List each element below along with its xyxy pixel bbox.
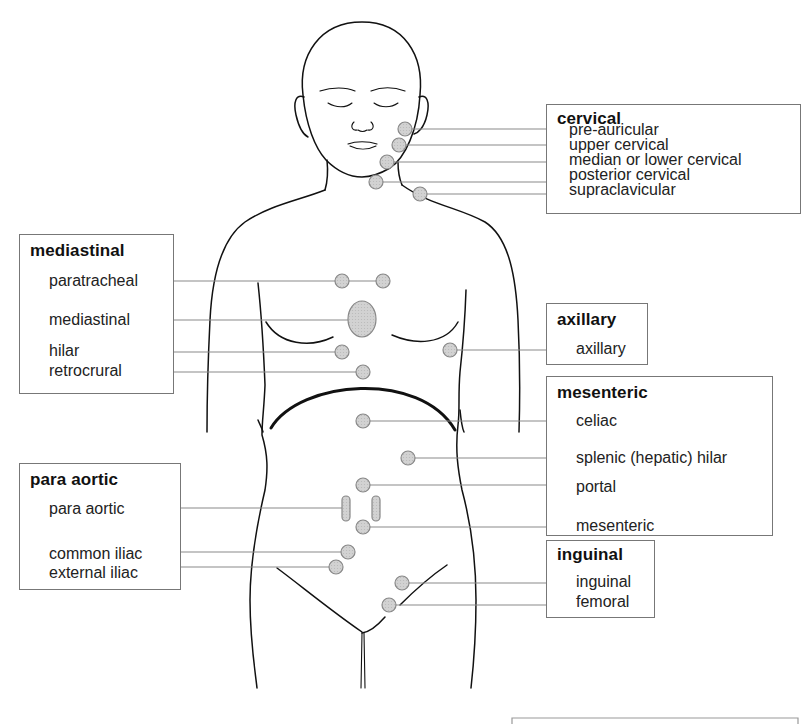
label-common-iliac: common iliac: [49, 545, 142, 563]
node-femoral: [382, 598, 396, 612]
nose: [352, 122, 373, 132]
label-external-iliac: external iliac: [49, 564, 138, 582]
label-axillary: axillary: [576, 340, 626, 358]
head-outline: [302, 22, 420, 177]
mesenteric-group-box: mesenteric celiac splenic (hepatic) hila…: [546, 376, 773, 536]
node-supraclavicular: [413, 187, 427, 201]
node-paratracheal-left: [335, 274, 349, 288]
node-median-lower-cervical: [380, 155, 394, 169]
right-eye: [374, 103, 398, 107]
left-pectoral: [266, 322, 333, 343]
label-supraclavicular: supraclavicular: [569, 182, 676, 197]
mediastinal-group-title: mediastinal: [30, 241, 125, 261]
node-splenic-hilar: [401, 451, 415, 465]
label-upper-cervical: upper cervical: [569, 137, 669, 152]
left-eye: [328, 103, 352, 107]
node-external-iliac: [329, 560, 343, 574]
right-shoulder-arm: [402, 185, 520, 432]
leg-divide: [361, 633, 365, 688]
label-retrocrural: retrocrural: [49, 362, 122, 380]
label-femoral: femoral: [576, 593, 629, 611]
node-axillary: [443, 343, 457, 357]
label-mediastinal: mediastinal: [49, 311, 130, 329]
node-inguinal: [395, 576, 409, 590]
right-groin: [362, 565, 447, 633]
node-mesenteric: [356, 520, 370, 534]
para-aortic-group-box: para aortic para aortic common iliac ext…: [19, 463, 181, 590]
node-retrocrural: [356, 365, 370, 379]
label-celiac: celiac: [576, 412, 617, 430]
node-upper-cervical: [392, 138, 406, 152]
label-posterior-cervical: posterior cervical: [569, 167, 690, 182]
node-portal: [356, 478, 370, 492]
body-outline: [207, 22, 520, 688]
left-torso-side: [250, 283, 267, 688]
inguinal-group-title: inguinal: [557, 545, 623, 565]
node-pre-auricular: [398, 122, 412, 136]
label-median-lower-cervical: median or lower cervical: [569, 152, 742, 167]
node-mediastinal: [348, 301, 376, 337]
label-paratracheal: paratracheal: [49, 272, 138, 290]
label-splenic-hilar: splenic (hepatic) hilar: [576, 449, 727, 467]
mouth: [348, 142, 377, 149]
right-eyebrow: [371, 88, 405, 91]
label-para-aortic: para aortic: [49, 500, 125, 518]
lymph-nodes: [329, 122, 457, 612]
neck-left: [325, 160, 328, 190]
node-para-aortic-left: [342, 496, 350, 521]
node-hilar: [335, 345, 349, 359]
right-ear: [414, 96, 428, 134]
bottom-box-edge: [512, 718, 798, 724]
right-pectoral: [392, 322, 458, 341]
node-celiac: [356, 414, 370, 428]
node-common-iliac: [341, 545, 355, 559]
label-inguinal: inguinal: [576, 573, 631, 591]
label-hilar: hilar: [49, 342, 79, 360]
cervical-group-box: cervical pre-auricular upper cervical me…: [546, 104, 801, 214]
mesenteric-group-title: mesenteric: [557, 383, 648, 403]
left-shoulder-arm: [207, 190, 325, 432]
left-groin: [277, 568, 362, 632]
left-eyebrow: [320, 88, 355, 91]
mediastinal-group-box: mediastinal paratracheal mediastinal hil…: [19, 234, 174, 394]
node-posterior-cervical: [369, 175, 383, 189]
axillary-group-title: axillary: [557, 310, 616, 330]
label-pre-auricular: pre-auricular: [569, 122, 659, 137]
label-portal: portal: [576, 478, 616, 496]
label-mesenteric: mesenteric: [576, 517, 654, 535]
node-para-aortic-right: [372, 496, 380, 521]
node-paratracheal-right: [376, 274, 390, 288]
para-aortic-group-title: para aortic: [30, 470, 118, 490]
axillary-group-box: axillary axillary: [546, 303, 648, 365]
inguinal-group-box: inguinal inguinal femoral: [546, 540, 655, 618]
